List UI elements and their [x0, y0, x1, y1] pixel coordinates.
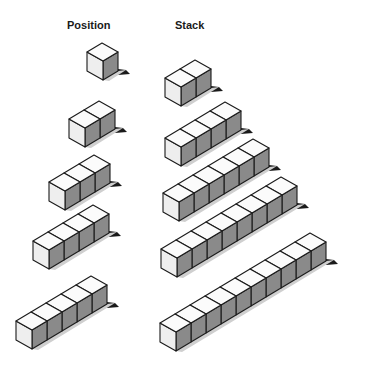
position-row-2: [69, 101, 127, 148]
position-row-4: [33, 205, 121, 270]
position-row-5: [16, 276, 119, 350]
cube-diagram: [0, 0, 368, 365]
position-row-1: [87, 43, 130, 81]
stack-row-1: [165, 60, 223, 107]
position-row-3: [49, 155, 122, 211]
